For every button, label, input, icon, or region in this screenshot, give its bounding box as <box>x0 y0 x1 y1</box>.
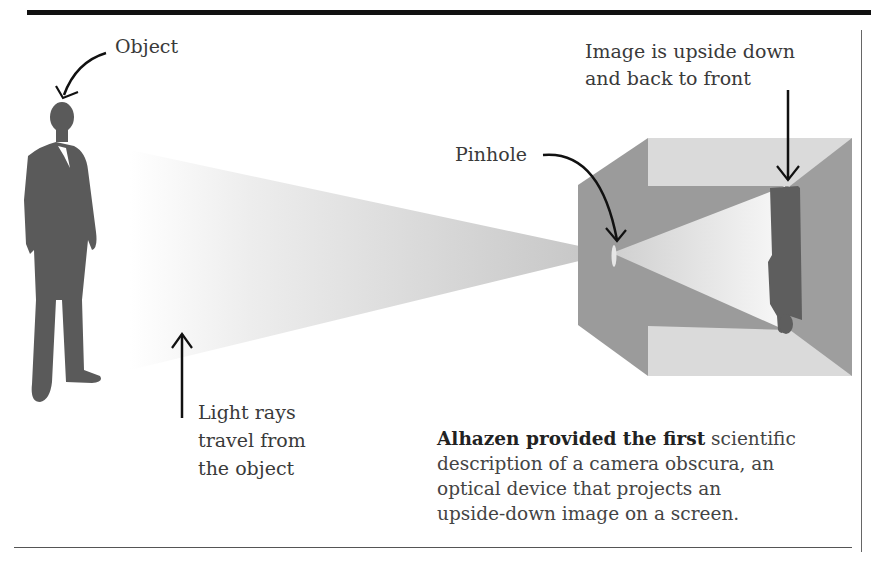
object-arrow-icon <box>64 53 106 95</box>
image-note-line1: Image is upside down <box>585 39 795 64</box>
pinhole-label: Pinhole <box>455 142 527 167</box>
caption-line3: optical device that projects an <box>437 476 857 501</box>
light-cone <box>130 150 612 370</box>
light-rays-line1: Light rays <box>198 400 296 425</box>
caption-bold: Alhazen provided the first <box>437 428 705 449</box>
camera-box <box>578 138 852 376</box>
caption-line4: upside-down image on a screen. <box>437 501 857 526</box>
caption: Alhazen provided the first scientific de… <box>437 426 857 526</box>
caption-line1: scientific <box>705 428 796 449</box>
image-note-line2: and back to front <box>585 66 751 91</box>
light-rays-line3: the object <box>198 456 294 481</box>
caption-line2: description of a camera obscura, an <box>437 451 857 476</box>
pinhole <box>612 245 617 267</box>
object-label: Object <box>115 34 178 59</box>
man-silhouette <box>24 102 101 402</box>
light-rays-line2: travel from <box>198 428 306 453</box>
